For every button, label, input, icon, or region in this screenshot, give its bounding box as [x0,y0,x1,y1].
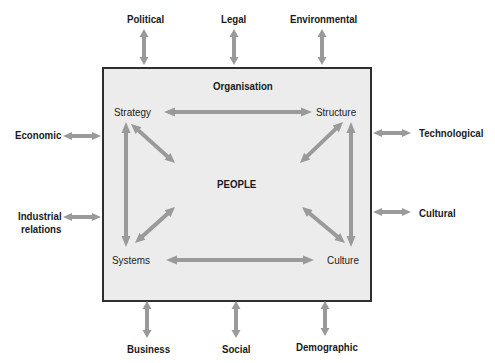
arrow-structure-culture [347,122,356,247]
factor-social: Social [222,343,251,355]
factor-industrial-relations-line1: Industrial [18,210,62,222]
arrow-cultural-shape [373,208,411,216]
arrow-culture-people-shape [302,207,345,243]
node-strategy: Strategy [114,106,151,118]
people-label: PEOPLE [217,178,256,190]
arrow-structure-people-shape [300,122,343,163]
factor-legal: Legal [221,13,246,25]
arrow-social-shape [232,301,241,338]
factor-business: Business [127,343,170,355]
node-culture: Culture [327,254,359,266]
arrow-legal-shape [230,29,239,65]
arrow-culture-people [302,207,345,243]
arrow-systems-culture [166,256,314,265]
arrow-business [143,301,152,338]
arrow-systems-people-shape [135,207,175,243]
arrow-political-shape [140,29,149,65]
arrow-cultural [373,208,411,216]
arrow-strategy-people [131,124,175,163]
arrow-systems-culture-shape [166,256,314,265]
node-systems: Systems [112,254,150,266]
arrow-political [140,29,149,65]
diagram-canvas: Organisation PEOPLE Strategy Structure S… [0,0,495,363]
arrow-economic-shape [63,132,101,140]
factor-cultural: Cultural [419,207,456,219]
organisation-title: Organisation [213,80,273,92]
arrow-demographic-shape [321,301,330,336]
arrow-environmental-shape [318,29,327,65]
arrow-strategy-systems-shape [122,122,131,247]
arrow-economic [63,132,101,140]
factor-technological: Technological [419,127,483,139]
arrow-structure-culture-shape [347,122,356,247]
arrow-technological-shape [373,129,411,137]
arrow-strategy-people-shape [131,124,175,163]
arrow-technological [373,129,411,137]
arrow-industrial-relations [63,213,101,221]
arrow-strategy-structure [164,108,312,117]
factor-demographic: Demographic [296,341,358,353]
arrow-social [232,301,241,338]
factor-environmental: Environmental [290,13,357,25]
node-structure: Structure [316,106,356,118]
arrow-environmental [318,29,327,65]
factor-economic: Economic [15,129,61,141]
arrow-demographic [321,301,330,336]
arrow-business-shape [143,301,152,338]
arrow-legal [230,29,239,65]
arrow-systems-people [135,207,175,243]
arrow-industrial-relations-shape [63,213,101,221]
arrow-structure-people [300,122,343,163]
factor-industrial-relations-line2: relations [21,223,61,235]
factor-political: Political [127,13,164,25]
arrow-strategy-systems [122,122,131,247]
arrow-strategy-structure-shape [164,108,312,117]
